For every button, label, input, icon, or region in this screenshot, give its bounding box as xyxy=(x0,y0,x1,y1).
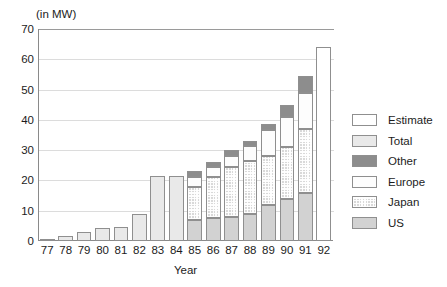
bar-segment-total[interactable] xyxy=(132,214,147,241)
bar-88[interactable] xyxy=(243,141,258,241)
x-axis-tick-label: 85 xyxy=(186,244,204,256)
bar-85[interactable] xyxy=(187,171,202,241)
x-axis-tick-label: 81 xyxy=(112,244,130,256)
bar-segment-us[interactable] xyxy=(261,205,276,241)
bar-segment-us[interactable] xyxy=(243,214,258,241)
bar-segment-other[interactable] xyxy=(280,105,295,117)
x-axis-title: Year xyxy=(38,264,333,276)
bar-78[interactable] xyxy=(58,236,73,241)
legend-item-label: Other xyxy=(388,155,417,167)
bar-segment-total[interactable] xyxy=(150,176,165,241)
y-axis-tick-label: 10 xyxy=(6,206,34,217)
y-axis-tick-label: 40 xyxy=(6,115,34,126)
y-axis-tick-label: 20 xyxy=(6,175,34,186)
bar-segment-japan[interactable] xyxy=(298,129,313,193)
bar-80[interactable] xyxy=(95,228,110,241)
x-axis-tick-label: 91 xyxy=(296,244,314,256)
bar-84[interactable] xyxy=(169,176,184,241)
bar-segment-other[interactable] xyxy=(206,162,221,167)
y-axis-tick-label: 70 xyxy=(6,24,34,35)
legend-item-other[interactable]: Other xyxy=(352,151,444,172)
bar-segment-total[interactable] xyxy=(77,232,92,241)
bar-92[interactable] xyxy=(316,47,331,241)
x-axis-tick-label: 82 xyxy=(130,244,148,256)
legend-item-total[interactable]: Total xyxy=(352,131,444,152)
legend-swatch-icon xyxy=(352,176,377,188)
x-axis-tick-label: 92 xyxy=(315,244,333,256)
y-axis-tick-label: 0 xyxy=(6,236,34,247)
x-axis-tick-label: 79 xyxy=(75,244,93,256)
bar-90[interactable] xyxy=(280,105,295,241)
bar-82[interactable] xyxy=(132,214,147,241)
bar-segment-other[interactable] xyxy=(187,171,202,177)
chart-legend: EstimateTotalOtherEuropeJapanUS xyxy=(352,110,444,233)
y-axis-unit-label: (in MW) xyxy=(36,8,76,20)
legend-item-label: Europe xyxy=(388,176,425,188)
bar-77[interactable] xyxy=(40,239,55,241)
legend-item-europe[interactable]: Europe xyxy=(352,172,444,193)
bar-segment-us[interactable] xyxy=(224,217,239,241)
x-axis-tick-label: 86 xyxy=(204,244,222,256)
bar-91[interactable] xyxy=(298,76,313,241)
bar-segment-total[interactable] xyxy=(58,236,73,241)
bar-segment-europe[interactable] xyxy=(224,156,239,167)
x-axis-tick-label: 78 xyxy=(56,244,74,256)
bar-segment-estimate[interactable] xyxy=(316,47,331,241)
bar-segment-total[interactable] xyxy=(169,176,184,241)
bar-segment-europe[interactable] xyxy=(206,167,221,178)
x-axis-tick-label: 89 xyxy=(259,244,277,256)
bar-segment-total[interactable] xyxy=(114,227,129,241)
bar-87[interactable] xyxy=(224,150,239,241)
bar-segment-japan[interactable] xyxy=(243,161,258,214)
bar-segment-us[interactable] xyxy=(187,220,202,241)
legend-swatch-icon xyxy=(352,217,377,229)
y-axis-tick-labels: 010203040506070 xyxy=(0,0,34,287)
bar-86[interactable] xyxy=(206,162,221,241)
x-axis-tick-label: 80 xyxy=(93,244,111,256)
bar-segment-other[interactable] xyxy=(243,141,258,146)
x-axis-tick-label: 84 xyxy=(167,244,185,256)
legend-item-label: Estimate xyxy=(388,114,433,126)
bar-segment-japan[interactable] xyxy=(224,167,239,217)
x-axis-tick-label: 87 xyxy=(222,244,240,256)
bar-segment-europe[interactable] xyxy=(261,130,276,156)
bar-series-group xyxy=(38,29,333,241)
bar-segment-europe[interactable] xyxy=(187,177,202,186)
y-axis-tick-label: 50 xyxy=(6,85,34,96)
bar-segment-other[interactable] xyxy=(224,150,239,156)
y-axis-tick-label: 60 xyxy=(6,54,34,65)
bar-segment-us[interactable] xyxy=(280,199,295,241)
x-axis-tick-label: 90 xyxy=(278,244,296,256)
legend-item-label: Total xyxy=(388,135,412,147)
bar-segment-total[interactable] xyxy=(95,228,110,241)
x-axis-tick-label: 77 xyxy=(38,244,56,256)
legend-swatch-icon xyxy=(352,155,377,167)
bar-segment-other[interactable] xyxy=(298,76,313,93)
bar-83[interactable] xyxy=(150,176,165,241)
x-axis-tick-label: 88 xyxy=(241,244,259,256)
legend-item-us[interactable]: US xyxy=(352,213,444,234)
x-axis-tick-labels: 77787980818283848586878889909192 xyxy=(38,244,333,260)
bar-segment-japan[interactable] xyxy=(206,177,221,218)
bar-segment-europe[interactable] xyxy=(298,93,313,129)
legend-item-japan[interactable]: Japan xyxy=(352,192,444,213)
bar-segment-total[interactable] xyxy=(40,239,55,241)
bar-segment-europe[interactable] xyxy=(243,146,258,161)
bar-81[interactable] xyxy=(114,227,129,241)
bar-segment-japan[interactable] xyxy=(187,187,202,220)
legend-item-label: Japan xyxy=(388,196,419,208)
bar-segment-japan[interactable] xyxy=(261,156,276,204)
bar-segment-us[interactable] xyxy=(298,193,313,241)
legend-item-estimate[interactable]: Estimate xyxy=(352,110,444,131)
legend-item-label: US xyxy=(388,217,404,229)
legend-swatch-icon xyxy=(352,114,377,126)
bar-segment-japan[interactable] xyxy=(280,147,295,198)
bar-segment-europe[interactable] xyxy=(280,117,295,147)
bar-79[interactable] xyxy=(77,232,92,241)
bar-segment-other[interactable] xyxy=(261,124,276,130)
chart-container: (in MW) 010203040506070 7778798081828384… xyxy=(0,0,447,287)
y-axis-tick-label: 30 xyxy=(6,145,34,156)
bar-89[interactable] xyxy=(261,124,276,241)
legend-swatch-icon xyxy=(352,135,377,147)
bar-segment-us[interactable] xyxy=(206,218,221,241)
